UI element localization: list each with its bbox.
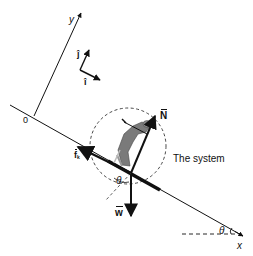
unit-vector-j-label: ĵ bbox=[77, 50, 80, 59]
unit-vector-i-label: î bbox=[84, 78, 87, 87]
friction-label: fk bbox=[74, 151, 80, 160]
y-axis-label: y bbox=[69, 15, 74, 25]
unit-vector-j-icon bbox=[80, 50, 89, 70]
system-label: The system bbox=[173, 154, 225, 164]
angle-label-contact: θ bbox=[116, 176, 121, 186]
angle-label-incline: θ bbox=[219, 226, 224, 236]
unit-vector-i-icon bbox=[80, 70, 100, 80]
normal-force-label: N bbox=[160, 111, 167, 121]
weight-label: w bbox=[115, 208, 123, 218]
diagram-canvas bbox=[0, 0, 253, 256]
origin-label: 0 bbox=[23, 116, 28, 125]
skier-figure bbox=[114, 119, 151, 166]
x-axis-label: x bbox=[237, 241, 242, 251]
y-axis bbox=[34, 13, 81, 116]
